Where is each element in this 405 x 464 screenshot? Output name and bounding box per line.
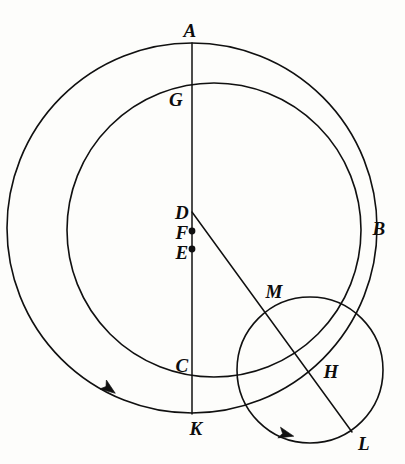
geometric-figure: A G B D F E M C H K L	[0, 0, 405, 464]
point-E-dot	[189, 246, 196, 253]
point-label-H: H	[324, 362, 339, 381]
point-label-A: A	[184, 21, 197, 40]
point-label-B: B	[373, 219, 386, 238]
point-label-G: G	[169, 90, 183, 109]
outer-circle-direction-arrow	[100, 380, 119, 398]
point-label-K: K	[190, 419, 203, 438]
figure-canvas	[0, 0, 405, 464]
point-label-F: F	[176, 223, 189, 242]
point-label-L: L	[358, 434, 370, 453]
point-label-M: M	[265, 282, 282, 301]
point-label-C: C	[176, 356, 189, 375]
point-label-D: D	[175, 203, 189, 222]
eccentric-inner-circle	[67, 83, 361, 377]
point-label-E: E	[176, 243, 189, 262]
point-F-dot	[189, 228, 196, 235]
